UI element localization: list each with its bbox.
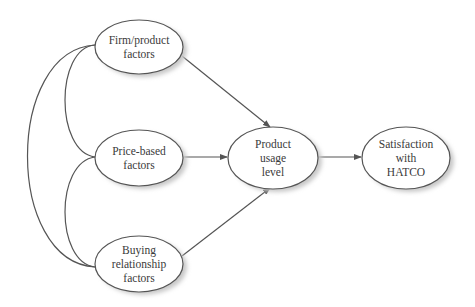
node-label: Product — [255, 138, 292, 150]
correlation-firm-price — [65, 45, 95, 157]
node-satisfaction: SatisfactionwithHATCO — [362, 127, 454, 192]
node-label: with — [396, 152, 417, 164]
node-buying: Buyingrelationshipfactors — [95, 236, 187, 295]
node-label: HATCO — [387, 166, 425, 178]
node-label: level — [262, 166, 284, 178]
path-diagram: Firm/productfactorsPrice-basedfactorsBuy… — [0, 0, 475, 307]
node-label: Buying — [122, 244, 156, 257]
node-label: Price-based — [112, 145, 166, 157]
node-label: usage — [260, 152, 286, 165]
node-label: Satisfaction — [379, 138, 434, 150]
node-label: factors — [123, 272, 155, 284]
node-firm: Firm/productfactors — [95, 20, 187, 77]
correlation-curves — [28, 45, 96, 267]
nodes: Firm/productfactorsPrice-basedfactorsBuy… — [95, 20, 454, 295]
correlation-firm-buying — [28, 45, 96, 267]
arrow-buying-to-product — [182, 188, 270, 256]
node-label: Firm/product — [109, 34, 170, 47]
node-price: Price-basedfactors — [95, 130, 187, 189]
node-label: relationship — [112, 258, 167, 271]
node-label: factors — [123, 48, 155, 60]
node-label: factors — [123, 159, 155, 171]
node-ellipse — [95, 20, 183, 74]
correlation-price-buying — [65, 157, 95, 267]
node-product: Productusagelevel — [228, 127, 322, 192]
node-ellipse — [95, 130, 183, 186]
arrow-firm-to-product — [182, 56, 270, 127]
